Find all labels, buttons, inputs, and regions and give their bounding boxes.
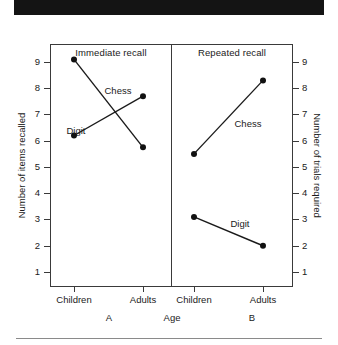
panel-b-digit-label: Digit xyxy=(231,218,250,229)
panel-a-digit-label: Digit xyxy=(67,125,86,136)
panel-b-digit-point-children xyxy=(191,214,197,220)
panel-a-chess-point-adults xyxy=(140,144,146,150)
panel-b-digit-point-adults xyxy=(260,243,266,249)
data-series-layer: Chess Digit Chess Digit xyxy=(0,0,338,345)
panel-b-digit-line xyxy=(194,217,263,246)
panel-b-chess-point-children xyxy=(191,151,197,157)
panel-a-chess-label: Chess xyxy=(105,85,132,96)
panel-b-chess-point-adults xyxy=(260,77,266,83)
panel-b-series-chess: Chess xyxy=(191,77,266,157)
panel-b-chess-label: Chess xyxy=(235,118,262,129)
panel-a-chess-point-children xyxy=(71,56,77,62)
figure-chart: Immediate recall Repeated recall 9 8 7 6… xyxy=(0,0,338,345)
panel-a-digit-point-adults xyxy=(140,93,146,99)
panel-a-series-chess: Chess xyxy=(71,56,146,150)
panel-b-series-digit: Digit xyxy=(191,214,266,249)
panel-b-chess-line xyxy=(194,80,263,154)
footer-rule xyxy=(16,338,322,339)
